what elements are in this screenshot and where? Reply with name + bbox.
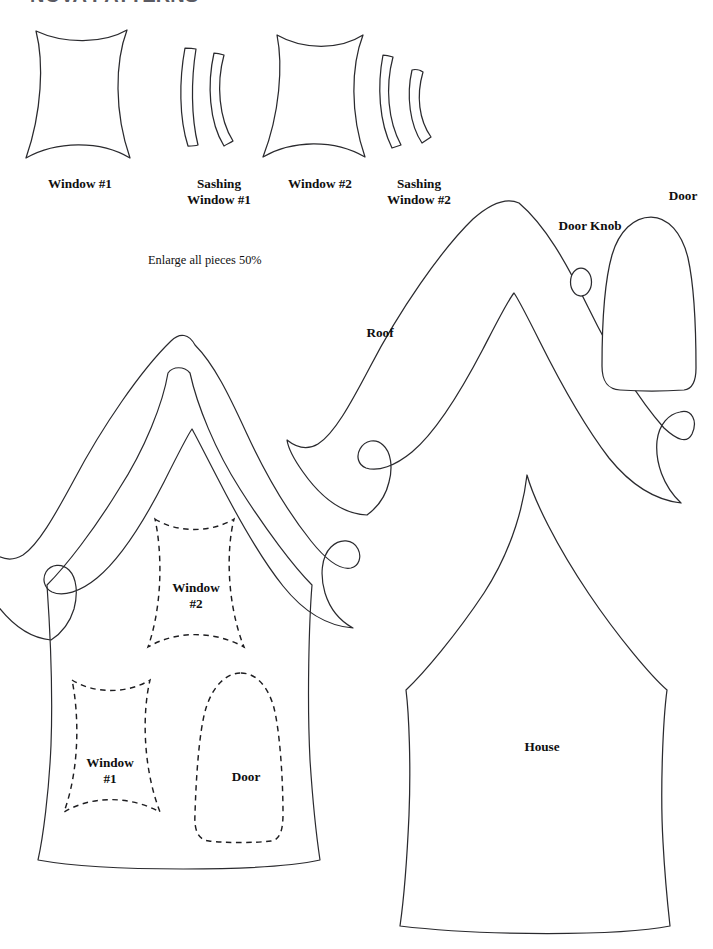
door-knob-shape bbox=[571, 268, 592, 296]
label-house: House bbox=[524, 739, 559, 755]
sashing-window-1-strip-a bbox=[181, 48, 198, 146]
placement-label-window-1: Window #1 bbox=[86, 755, 133, 786]
placement-label-door: Door bbox=[232, 769, 261, 785]
label-window-2: Window #2 bbox=[288, 176, 352, 192]
door-shape bbox=[602, 217, 696, 391]
sashing-window-2-strip-a bbox=[380, 55, 401, 148]
label-door: Door bbox=[669, 188, 698, 204]
pattern-linework bbox=[0, 0, 713, 949]
label-sashing-window-2: Sashing Window #2 bbox=[387, 176, 451, 207]
placement-door-outline bbox=[195, 673, 283, 843]
enlarge-note: Enlarge all pieces 50% bbox=[148, 253, 262, 268]
label-roof: Roof bbox=[366, 325, 393, 341]
sashing-window-2-strip-b bbox=[409, 70, 431, 143]
sashing-window-1-strip-b bbox=[210, 53, 233, 146]
label-sashing-window-1: Sashing Window #1 bbox=[187, 176, 251, 207]
window-2-shape bbox=[263, 35, 365, 157]
label-window-1: Window #1 bbox=[48, 176, 112, 192]
house-shape bbox=[400, 475, 670, 934]
pattern-sheet: NOVA PATTERNS Three Hill House Window # bbox=[0, 0, 713, 949]
label-door-knob: Door Knob bbox=[558, 218, 621, 234]
placement-label-window-2: Window #2 bbox=[172, 580, 219, 611]
assembled-house-body bbox=[38, 368, 320, 869]
window-1-shape bbox=[26, 30, 130, 158]
placement-window-1-outline bbox=[64, 680, 160, 812]
